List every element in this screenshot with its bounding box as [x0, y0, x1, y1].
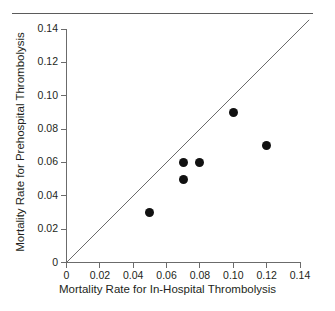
- y-axis-tick-label: 0.10: [38, 90, 58, 101]
- figure-container: 00.020.040.060.080.100.120.1400.020.040.…: [0, 0, 335, 311]
- y-axis-tick: [61, 195, 66, 196]
- y-axis-tick-label: 0.04: [38, 190, 58, 201]
- data-point: [179, 158, 188, 167]
- x-axis-tick-label: 0.08: [190, 270, 210, 281]
- data-point: [229, 108, 238, 117]
- x-axis-tick: [66, 259, 67, 268]
- data-point: [179, 175, 188, 184]
- x-axis-tick: [133, 263, 134, 268]
- y-axis-tick: [61, 62, 66, 63]
- x-axis-tick-label: 0.10: [223, 270, 243, 281]
- x-axis-tick-label: 0.06: [156, 270, 176, 281]
- y-axis-tick: [61, 95, 66, 96]
- x-axis-tick-label: 0.12: [256, 270, 276, 281]
- y-axis-tick-label: 0.12: [38, 56, 58, 67]
- y-axis-tick: [61, 162, 66, 163]
- y-axis-tick: [61, 29, 66, 30]
- y-axis-tick-label: 0.06: [38, 156, 58, 167]
- x-axis-label: Mortality Rate for In-Hospital Thromboly…: [0, 283, 335, 295]
- plot-area: 00.020.040.060.080.100.120.1400.020.040.…: [0, 0, 335, 311]
- x-axis-tick: [166, 263, 167, 268]
- x-axis-tick: [266, 263, 267, 268]
- x-axis-tick-label: 0.14: [290, 270, 310, 281]
- y-axis-label-wrapper: Mortality Rate for Prehospital Thromboly…: [14, 17, 26, 267]
- y-axis-label: Mortality Rate for Prehospital Thromboly…: [14, 32, 26, 252]
- y-axis-tick: [61, 229, 66, 230]
- y-axis-tick-label: 0.02: [38, 223, 58, 234]
- x-axis-tick-label: 0: [64, 270, 70, 281]
- x-axis-tick-label: 0.02: [90, 270, 110, 281]
- line-of-identity: [67, 20, 310, 263]
- y-axis-tick-label: 0: [52, 257, 58, 268]
- x-axis-tick: [99, 263, 100, 268]
- x-axis-tick: [199, 263, 200, 268]
- x-axis-tick: [233, 263, 234, 268]
- y-axis-tick: [61, 129, 66, 130]
- y-axis-tick-label: 0.14: [38, 23, 58, 34]
- x-axis-tick-label: 0.04: [123, 270, 143, 281]
- x-axis-tick: [300, 263, 301, 268]
- y-axis-tick-label: 0.08: [38, 123, 58, 134]
